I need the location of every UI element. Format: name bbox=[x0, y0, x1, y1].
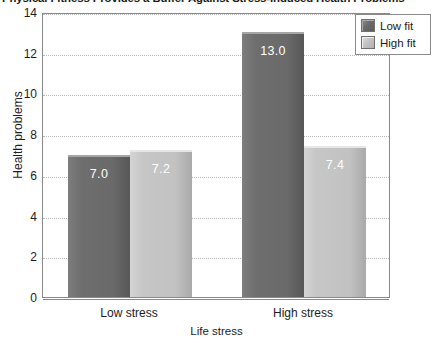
x-axis-tick-label: Low stress bbox=[49, 306, 209, 320]
gridline bbox=[43, 136, 389, 137]
legend: Low fit High fit bbox=[355, 14, 431, 55]
bar[interactable]: 13.0 bbox=[242, 32, 304, 297]
y-axis-title: Health problems bbox=[11, 60, 25, 210]
bar[interactable]: 7.4 bbox=[304, 146, 366, 297]
bar-value-label: 7.4 bbox=[304, 158, 366, 172]
bar-value-label: 13.0 bbox=[242, 44, 304, 58]
legend-swatch-icon bbox=[361, 19, 375, 32]
gridline bbox=[43, 95, 389, 96]
y-axis-tick-label: 4 bbox=[7, 210, 37, 224]
bar-value-label: 7.2 bbox=[130, 162, 192, 176]
gridline bbox=[43, 14, 389, 15]
bar-body: 7.4 bbox=[304, 146, 366, 297]
y-axis-tick-label: 14 bbox=[7, 6, 37, 20]
bar-value-label: 7.0 bbox=[68, 167, 130, 181]
bar[interactable]: 7.0 bbox=[68, 155, 130, 298]
legend-item-label: High fit bbox=[380, 37, 416, 49]
y-axis-tick-label: 0 bbox=[7, 291, 37, 305]
legend-item-high-fit[interactable]: High fit bbox=[361, 36, 425, 49]
legend-swatch-icon bbox=[361, 36, 375, 49]
legend-item-low-fit[interactable]: Low fit bbox=[361, 19, 425, 32]
legend-item-label: Low fit bbox=[380, 20, 413, 32]
bar[interactable]: 7.2 bbox=[130, 150, 192, 297]
chart-figure: Physical Fitness Provides a Buffer Again… bbox=[0, 0, 433, 343]
y-axis-tick-label: 2 bbox=[7, 250, 37, 264]
gridline bbox=[43, 299, 389, 300]
bar-body: 7.0 bbox=[68, 155, 130, 298]
x-axis-tick-label: High stress bbox=[223, 306, 383, 320]
plot-area: 7.07.213.07.4 bbox=[42, 13, 390, 298]
x-axis-title: Life stress bbox=[0, 325, 433, 337]
y-axis-tick-label: 12 bbox=[7, 47, 37, 61]
gridline bbox=[43, 55, 389, 56]
bar-body: 7.2 bbox=[130, 150, 192, 297]
bar-body: 13.0 bbox=[242, 32, 304, 297]
chart-title: Physical Fitness Provides a Buffer Again… bbox=[2, 0, 433, 4]
